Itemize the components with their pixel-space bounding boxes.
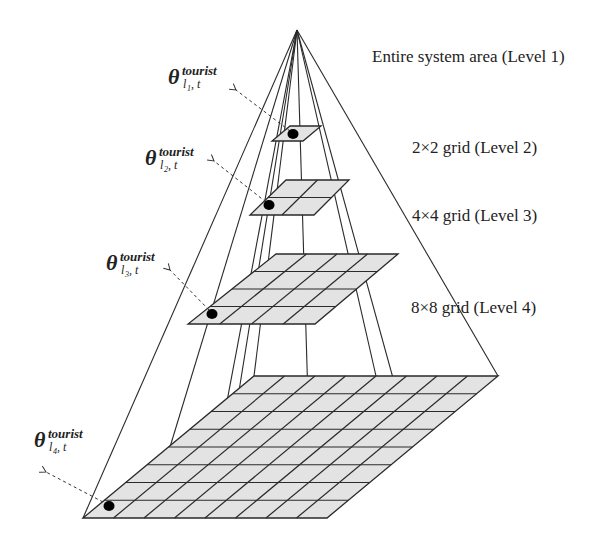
theta-subscript-t: , t [129, 263, 139, 277]
tourist-dot-icon [104, 501, 115, 511]
theta-symbol: θ [106, 250, 118, 275]
level-2-label: 2×2 grid (Level 2) [412, 138, 537, 157]
tourist-dot-icon [264, 200, 275, 210]
level-1-label: Entire system area (Level 1) [372, 47, 565, 66]
theta-symbol: θ [34, 427, 46, 452]
theta-symbol: θ [145, 145, 157, 170]
pyramid-edge-line [297, 30, 309, 433]
level-4-grid-plane [170, 254, 398, 324]
tourist-dot-icon [207, 309, 218, 319]
pyramid-edge-line [297, 30, 498, 376]
dashed-arrow [46, 472, 103, 502]
theta-subscript-t: , t [57, 440, 67, 454]
theta-label-level-4: θtouristl3, t [106, 249, 155, 279]
theta-superscript: tourist [159, 144, 194, 159]
pyramid-diagram: θtouristl4, tθtouristl3, tθtouristl2, tθ… [0, 0, 603, 547]
theta-superscript: tourist [48, 426, 83, 441]
level-2-grid-plane [236, 90, 321, 141]
tourist-dot-icon [288, 129, 299, 139]
theta-superscript: tourist [120, 249, 155, 264]
theta-subscript-t: , t [168, 158, 178, 172]
theta-label-level-2: θtouristl1, t [168, 63, 217, 93]
dashed-arrow [214, 161, 266, 202]
theta-superscript: tourist [182, 63, 217, 78]
theta-label-base: θtouristl4, t [34, 426, 83, 456]
level-4-label: 8×8 grid (Level 4) [411, 298, 536, 317]
theta-subscript-t: , t [191, 77, 201, 91]
theta-symbol: θ [168, 64, 180, 89]
theta-label-level-3: θtouristl2, t [145, 144, 194, 174]
level-3-label: 4×4 grid (Level 3) [412, 206, 537, 225]
